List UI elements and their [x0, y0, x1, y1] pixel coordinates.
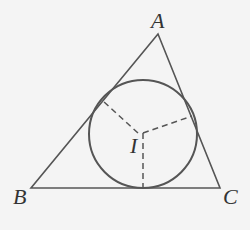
triangle-incircle-figure [0, 0, 250, 230]
label-c: C [223, 186, 238, 208]
label-b: B [13, 186, 26, 208]
label-a: A [151, 10, 164, 32]
label-i: I [130, 135, 137, 157]
diagram-canvas: A B C I [0, 0, 250, 230]
radius-to-ab [103, 101, 138, 133]
radius-to-ac [143, 116, 192, 133]
